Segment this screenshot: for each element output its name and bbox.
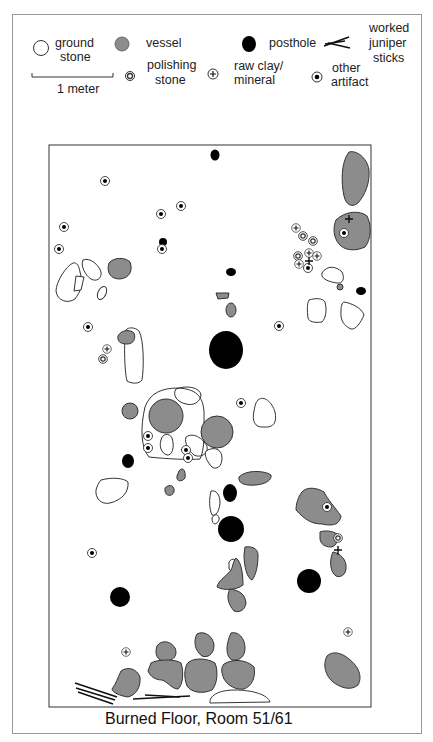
legend-ground-stone-2: stone [60,50,91,64]
ground-stone-icon [34,41,49,56]
scale-label: 1 meter [57,82,99,96]
posthole-icon [242,36,256,52]
floor-plan-figure: ground stone vessel posthole worked juni… [0,0,433,742]
juniper-sticks-icon [324,37,350,48]
legend-vessel: vessel [146,36,181,50]
legend-clay-2: mineral [234,73,275,87]
legend-juniper-3: sticks [373,51,404,65]
legend-polishing-1: polishing [147,58,196,72]
legend-artifact-1: other [332,61,361,75]
other-artifact-icon [312,72,322,82]
figure-title: Burned Floor, Room 51/61 [105,710,293,727]
legend-ground-stone-1: ground [55,36,94,50]
legend-artifact-2: artifact [331,75,369,89]
raw-clay-icon [208,69,218,79]
legend-clay-1: raw clay/ [234,59,284,73]
legend-juniper-1: worked [368,21,409,35]
polishing-stone-icon [126,72,135,81]
legend-juniper-2: juniper [368,36,407,50]
vessel-icon [115,37,129,51]
legend-polishing-2: stone [155,73,186,87]
legend: ground stone vessel posthole worked juni… [32,21,409,96]
scale-bar [32,73,113,77]
legend-posthole: posthole [269,36,316,50]
